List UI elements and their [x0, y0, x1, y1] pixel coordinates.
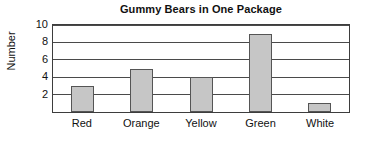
y-axis-title: Number: [5, 16, 17, 86]
chart-title: Gummy Bears in One Package: [52, 3, 350, 15]
x-tick-label: Red: [52, 117, 112, 129]
y-tick-label: 2: [24, 88, 48, 99]
bar-slot: [53, 25, 112, 112]
y-axis-tick-labels: 246810: [24, 18, 48, 113]
plot-area: [52, 24, 350, 113]
x-tick-label: Green: [231, 117, 291, 129]
bar-slot: [112, 25, 171, 112]
bar: [190, 77, 213, 112]
y-tick-label: 6: [24, 53, 48, 64]
y-tick-label: 10: [24, 19, 48, 30]
bar: [130, 69, 153, 113]
bar-slot: [231, 25, 290, 112]
bar: [308, 103, 331, 112]
bar: [71, 86, 94, 112]
bar-chart-figure: Gummy Bears in One Package Number 246810…: [0, 0, 368, 146]
y-tick-label: 8: [24, 36, 48, 47]
bars-group: [53, 25, 349, 112]
bar-slot: [171, 25, 230, 112]
x-tick-label: White: [290, 117, 350, 129]
x-tick-label: Orange: [112, 117, 172, 129]
bar-slot: [290, 25, 349, 112]
x-tick-label: Yellow: [171, 117, 231, 129]
y-tick-label: 4: [24, 71, 48, 82]
bar: [249, 34, 272, 112]
x-axis-tick-labels: RedOrangeYellowGreenWhite: [52, 117, 350, 129]
